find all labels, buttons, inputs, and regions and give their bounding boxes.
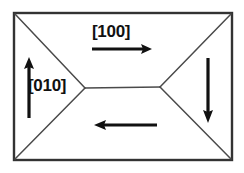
direction-label-010: [010] — [28, 77, 66, 94]
wall-central-horizontal — [85, 87, 160, 88]
domain-diagram-figure: [100] [010] — [0, 0, 244, 173]
direction-label-100: [100] — [92, 23, 130, 40]
